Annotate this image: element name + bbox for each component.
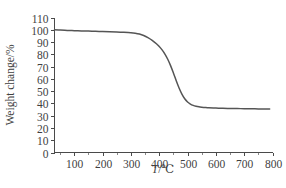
x-axis-title: T/℃ bbox=[152, 163, 175, 175]
tga-chart-figure: 0102030405060708090100110 10020030040050… bbox=[0, 0, 286, 188]
y-tick-label: 80 bbox=[37, 49, 49, 61]
y-tick-label: 0 bbox=[43, 148, 49, 160]
x-tick-label: 800 bbox=[265, 158, 283, 170]
y-tick-label: 90 bbox=[37, 37, 49, 49]
x-tick-label: 500 bbox=[180, 158, 198, 170]
x-axis-ticks bbox=[61, 153, 274, 157]
y-axis-group: 0102030405060708090100110 bbox=[31, 13, 54, 160]
y-axis-tick-labels: 0102030405060708090100110 bbox=[31, 13, 49, 160]
x-tick-label: 100 bbox=[66, 158, 84, 170]
x-tick-label: 600 bbox=[208, 158, 226, 170]
y-tick-label: 70 bbox=[37, 62, 49, 74]
x-tick-label: 200 bbox=[95, 158, 113, 170]
y-axis-ticks bbox=[51, 19, 55, 154]
y-tick-label: 60 bbox=[37, 74, 49, 86]
x-tick-label: 300 bbox=[123, 158, 141, 170]
y-tick-label: 50 bbox=[37, 86, 49, 98]
chart-canvas: 0102030405060708090100110 10020030040050… bbox=[0, 0, 286, 188]
y-tick-label: 10 bbox=[37, 135, 49, 147]
y-tick-label: 100 bbox=[31, 25, 49, 37]
y-tick-label: 20 bbox=[37, 123, 49, 135]
y-tick-label: 110 bbox=[32, 13, 49, 25]
y-tick-label: 30 bbox=[37, 111, 49, 123]
y-tick-label: 40 bbox=[37, 98, 49, 110]
tga-weight-loss-curve bbox=[55, 30, 270, 109]
y-axis-title: Weight change/% bbox=[4, 44, 17, 126]
x-tick-label: 700 bbox=[236, 158, 254, 170]
